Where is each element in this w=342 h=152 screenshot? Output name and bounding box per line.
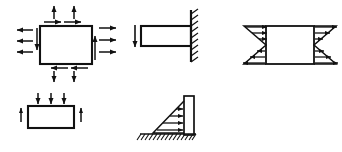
figure-canvas	[0, 0, 342, 152]
cantilever-beam-body	[141, 26, 191, 46]
diagram-svg	[0, 0, 342, 152]
canvas-background	[0, 0, 342, 152]
loaded-block-body	[28, 106, 74, 128]
shear-block-body	[266, 26, 314, 64]
stress-element-body	[40, 26, 92, 64]
retaining-wall-body	[184, 96, 194, 135]
